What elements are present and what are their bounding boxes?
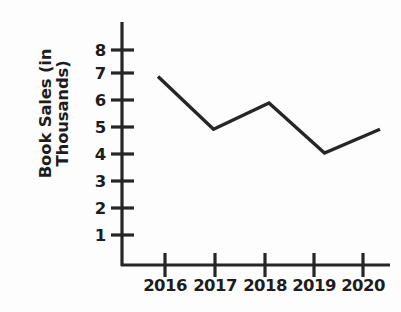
line-chart: Book Sales (in Thousands) 8 7 6 5 4 3 2 … [0,0,401,312]
data-series-line [158,76,380,153]
plot-area [0,0,401,312]
y-axis [111,22,134,266]
x-axis [121,253,390,277]
